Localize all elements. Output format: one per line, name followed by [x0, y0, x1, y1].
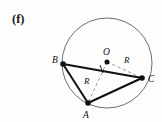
radius-oa-label: R	[83, 76, 90, 86]
radius-oc-label: R	[123, 55, 130, 65]
center-o-dot	[105, 60, 110, 65]
figure-panel: (f) B C A O R R	[0, 0, 162, 122]
vertex-c-label: C	[148, 74, 155, 84]
vertex-a-label: A	[82, 110, 89, 120]
vertex-b-label: B	[52, 55, 58, 65]
vertex-b-dot	[60, 61, 66, 67]
center-o-label: O	[103, 47, 110, 57]
vertex-a-dot	[85, 100, 91, 106]
circle-triangle-diagram: B C A O R R	[0, 0, 162, 122]
vertex-c-dot	[139, 75, 145, 81]
